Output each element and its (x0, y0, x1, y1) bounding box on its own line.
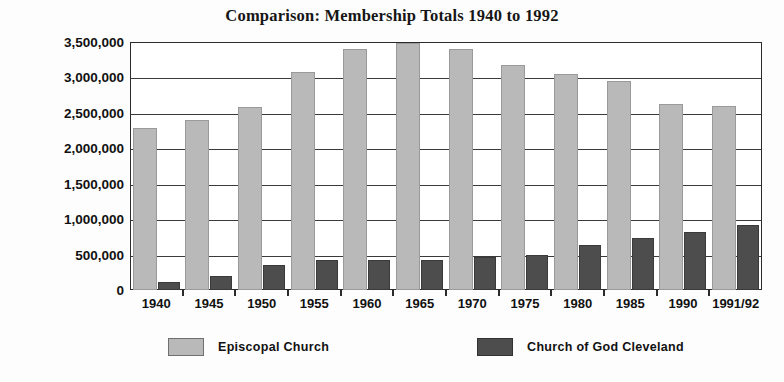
chart-title: Comparison: Membership Totals 1940 to 19… (0, 6, 784, 26)
gridline (131, 78, 761, 79)
plot-area (130, 42, 762, 290)
legend-item: Church of God Cleveland (477, 338, 684, 356)
x-axis-tick-label: 1990 (669, 296, 698, 311)
legend-swatch-icon (168, 338, 204, 356)
chart-container: Comparison: Membership Totals 1940 to 19… (0, 0, 784, 382)
x-axis-tick-label: 1960 (353, 296, 382, 311)
x-axis-tick-label: 1955 (300, 296, 329, 311)
gridline (131, 114, 761, 115)
x-axis-tick-mark (392, 290, 394, 296)
legend-label: Church of God Cleveland (527, 340, 684, 354)
x-axis-tick-mark (603, 290, 605, 296)
x-axis-tick-label: 1945 (195, 296, 224, 311)
x-axis-tick-label: 1980 (563, 296, 592, 311)
y-axis-tick-label: 2,500,000 (0, 105, 124, 120)
x-axis-tick-mark (708, 290, 710, 296)
x-axis-tick-label: 1991/92 (712, 296, 759, 311)
y-axis-tick-label: 500,000 (0, 247, 124, 262)
y-axis-tick-label: 1,500,000 (0, 176, 124, 191)
y-axis: 3,500,0003,000,0002,500,0002,000,0001,50… (0, 42, 124, 290)
x-axis-tick-label: 1975 (511, 296, 540, 311)
y-axis-tick-label: 2,000,000 (0, 141, 124, 156)
y-axis-tick-label: 1,000,000 (0, 212, 124, 227)
y-axis-tick-label: 3,000,000 (0, 70, 124, 85)
legend-item: Episcopal Church (168, 338, 329, 356)
y-axis-tick-label: 0 (0, 283, 124, 298)
gridline (131, 256, 761, 257)
x-axis-tick-label: 1965 (405, 296, 434, 311)
y-axis-tick-label: 3,500,000 (0, 35, 124, 50)
x-axis-tick-mark (656, 290, 658, 296)
x-axis-tick-mark (445, 290, 447, 296)
x-axis-tick-label: 1985 (616, 296, 645, 311)
legend-label: Episcopal Church (218, 340, 329, 354)
gridline (131, 185, 761, 186)
x-axis-tick-mark (550, 290, 552, 296)
gridline (131, 220, 761, 221)
x-axis-tick-mark (340, 290, 342, 296)
x-axis: 1940194519501955196019651970197519801985… (130, 296, 762, 318)
x-axis-tick-label: 1940 (142, 296, 171, 311)
chart-legend: Episcopal ChurchChurch of God Cleveland (130, 332, 762, 362)
gridline (131, 149, 761, 150)
x-axis-tick-mark (498, 290, 500, 296)
x-axis-tick-mark (287, 290, 289, 296)
x-axis-tick-label: 1950 (247, 296, 276, 311)
x-axis-tick-mark (234, 290, 236, 296)
x-axis-tick-mark (182, 290, 184, 296)
legend-swatch-icon (477, 338, 513, 356)
x-axis-tick-label: 1970 (458, 296, 487, 311)
